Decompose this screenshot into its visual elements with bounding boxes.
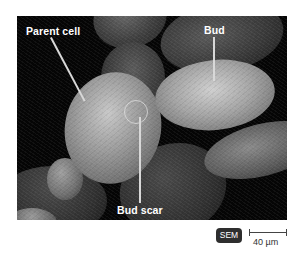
scale-bar	[249, 228, 287, 236]
bud-scar-label: Bud scar	[117, 204, 163, 216]
sem-badge: SEM	[216, 228, 242, 243]
parent-cell-label: Parent cell	[26, 25, 80, 37]
parent-cell-leader-line	[50, 37, 85, 101]
scale-bar-tick	[286, 229, 287, 236]
bud-label: Bud	[204, 24, 225, 36]
sem-micrograph: Parent cell Bud Bud scar	[17, 16, 287, 220]
scale-bar-label: 40 µm	[253, 237, 278, 247]
bud-scar-ring	[124, 100, 148, 124]
bud-leader-line	[213, 37, 215, 81]
scale-bar-tick	[249, 229, 250, 236]
scale-bar-line	[249, 232, 287, 233]
bud-scar-leader-line	[139, 117, 141, 203]
